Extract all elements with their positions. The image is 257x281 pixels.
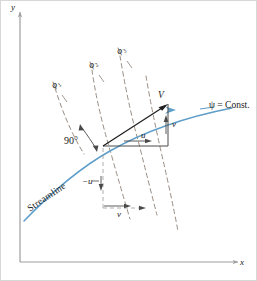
- right-angle-indicator-group: [79, 124, 99, 152]
- streamline-arrowhead: [165, 107, 176, 115]
- axes-group: [18, 12, 238, 264]
- right-angle-label: 90°: [64, 136, 78, 146]
- u-component-label: u: [141, 131, 146, 140]
- psi-equals-const: = Const.: [215, 100, 250, 110]
- v-bottom-arrowhead-2: [139, 206, 146, 211]
- equipotential-line-phi2: [92, 70, 130, 219]
- neg-u-arrow-group: [92, 176, 103, 191]
- figure-canvas: y x ψ = Const. ϕ1 ϕ2 ϕ3 90° V u v −u v S…: [0, 0, 257, 281]
- u-component-arrowhead: [145, 139, 152, 144]
- phi1-leader: [62, 95, 67, 102]
- neg-u-component-label: −u: [82, 177, 93, 186]
- figure-vector-graphics: [0, 0, 257, 281]
- phi3-leader: [127, 61, 132, 68]
- v-bottom-arrow-group: [104, 204, 146, 211]
- neg-u-arrowhead: [99, 184, 104, 191]
- streamline-curve: [24, 108, 232, 221]
- u-component-arrow-group: [124, 139, 152, 144]
- streamline-const-label: ψ = Const.: [209, 101, 250, 111]
- x-axis-label: x: [240, 258, 244, 267]
- projection-construction-group: [103, 148, 143, 208]
- equipotential-line-phi3: [120, 56, 157, 215]
- v-bottom-component-label: v: [117, 210, 121, 219]
- streamline-group: [24, 107, 232, 222]
- right-angle-arc: [82, 128, 95, 147]
- y-axis-label: y: [11, 3, 15, 12]
- phi2-leader: [99, 75, 104, 82]
- velocity-vector-label: V: [158, 91, 164, 101]
- right-angle-arrow-down: [93, 146, 99, 153]
- right-angle-arrow-up: [79, 124, 85, 131]
- v-component-label: v: [172, 120, 176, 129]
